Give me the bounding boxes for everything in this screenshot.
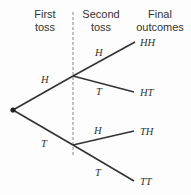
branch-HT [73, 76, 134, 92]
branch-TH [73, 131, 134, 145]
label-first-T: T [41, 138, 48, 149]
label-second-H-lower: H [93, 125, 103, 136]
outcome-HH: HH [139, 37, 157, 48]
root-node [10, 107, 15, 112]
branch-TT [73, 145, 134, 181]
tree-diagram: First toss Second toss Final outcomes H … [0, 0, 191, 195]
tree-graphic: H T H T H T HH HT TH TT [0, 0, 191, 195]
outcome-HT: HT [139, 87, 155, 98]
label-first-H: H [40, 74, 50, 85]
outcome-TT: TT [140, 176, 153, 187]
outcome-TH: TH [140, 126, 155, 137]
label-second-H-upper: H [94, 47, 104, 58]
label-second-T-upper: T [96, 86, 103, 97]
branch-HH [73, 42, 135, 76]
label-second-T-lower: T [95, 167, 102, 178]
